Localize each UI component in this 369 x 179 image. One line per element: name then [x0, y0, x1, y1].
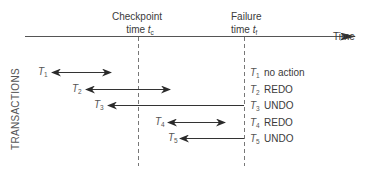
- transaction-label-t1: T1: [38, 66, 48, 80]
- checkpoint-time-sub: c: [151, 29, 154, 36]
- outcome-label-t2: T2: [250, 84, 260, 98]
- failure-time-label: time tf: [231, 24, 257, 38]
- outcome-label-t5: T5: [250, 133, 260, 147]
- failure-title: Failure: [231, 11, 262, 22]
- outcome-action-t1: no action: [264, 67, 305, 78]
- checkpoint-title: Checkpoint: [112, 11, 162, 22]
- transaction-label-t5: T5: [168, 132, 178, 146]
- transaction-label-t2: T2: [72, 83, 82, 97]
- checkpoint-time-label: time tc: [126, 24, 154, 38]
- time-axis-label: Time: [333, 31, 355, 42]
- checkpoint-time-prefix: time: [126, 24, 145, 35]
- failure-time-prefix: time: [231, 24, 250, 35]
- diagram-lines: [0, 0, 369, 179]
- transaction-label-t3: T3: [94, 99, 104, 113]
- failure-time-sub: f: [255, 29, 257, 36]
- outcome-action-t3: UNDO: [264, 100, 293, 111]
- recovery-timeline-diagram: Checkpoint time tc Failure time tf Time …: [0, 0, 369, 179]
- outcome-action-t5: UNDO: [264, 133, 293, 144]
- outcome-label-t4: T4: [250, 117, 260, 131]
- outcome-action-t2: REDO: [264, 84, 293, 95]
- outcome-label-t3: T3: [250, 100, 260, 114]
- outcome-action-t4: REDO: [264, 117, 293, 128]
- transactions-axis-label: TRANSACTIONS: [10, 68, 21, 150]
- transaction-label-t4: T4: [155, 116, 165, 130]
- outcome-label-t1: T1: [250, 67, 260, 81]
